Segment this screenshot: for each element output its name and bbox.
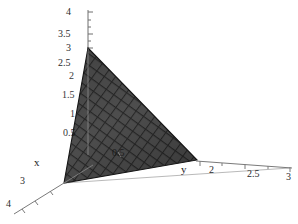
plot-canvas [0,0,298,224]
z-tick-label-2: 2 [69,71,74,81]
x-tick-label-4: 4 [6,199,11,209]
z-tick-label-0-5: 0.5 [63,128,76,138]
z-tick-label-3-5: 3.5 [58,29,71,39]
x-axis-ticks [22,191,53,213]
y-tick-label-0-5: 0.5 [112,148,125,158]
x-axis-line [14,183,64,214]
y-axis-label: y [181,164,187,175]
z-tick-label-2-5: 2.5 [58,58,71,68]
x-axis-label: x [34,157,40,168]
z-tick-label-3: 3 [66,43,71,53]
y-tick-label-2: 2 [209,165,214,175]
y-tick-label-3: 3 [286,172,291,182]
z-tick-label-1: 1 [70,109,75,119]
surface-patch [64,48,197,183]
x-tick-label-3: 3 [20,176,25,186]
z-tick-label-4: 4 [66,7,71,17]
z-tick-label-1-5: 1.5 [62,90,75,100]
y-tick-label-2-5: 2.5 [247,169,260,179]
surface-plot-figure: 4 3.5 3 2.5 2 1.5 1 0.5 x 3 4 y 0.5 2 2.… [0,0,298,224]
